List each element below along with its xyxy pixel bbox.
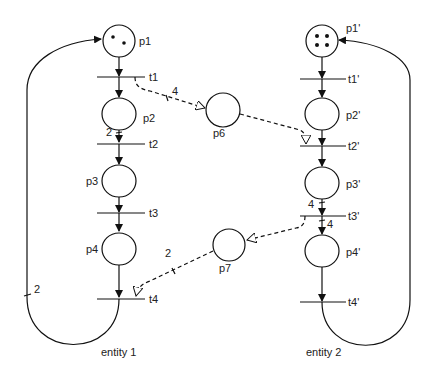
label-p3-prime: p3' (346, 178, 360, 190)
label-loop-weight: 2 (34, 283, 40, 295)
label-p4: p4 (86, 243, 98, 255)
petri-net-diagram: p1 t1 4 p2 2 t2 p3 t3 p4 t4 2 2 p6 p7 p1… (0, 0, 432, 378)
place-p2-prime (305, 98, 339, 130)
label-t3: t3 (149, 207, 158, 219)
place-p6 (206, 93, 240, 127)
place-p3 (102, 165, 136, 197)
label-weight-p7-out: 2 (165, 247, 171, 259)
label-p6: p6 (213, 127, 225, 139)
label-weight-p3-t3: 4 (308, 198, 314, 210)
label-p2-prime: p2' (346, 109, 360, 121)
label-t4: t4 (149, 293, 158, 305)
entity-2-label: entity 2 (306, 346, 341, 358)
place-p4-prime (305, 235, 339, 267)
label-t2-prime: t2' (348, 140, 359, 152)
token (111, 35, 115, 39)
place-p1-prime (306, 25, 338, 57)
place-p1 (103, 25, 135, 57)
label-t3-prime: t3' (348, 210, 359, 222)
place-p3-prime (305, 167, 339, 199)
label-t1: t1 (149, 71, 158, 83)
label-t2: t2 (149, 138, 158, 150)
label-p2: p2 (143, 112, 155, 124)
label-t1-prime: t1' (348, 73, 359, 85)
label-weight-t3-p4: 4 (327, 218, 333, 230)
label-p3: p3 (86, 175, 98, 187)
label-p1: p1 (139, 35, 151, 47)
label-weight-p6-in: 4 (172, 85, 178, 97)
label-p7: p7 (219, 262, 231, 274)
label-p4-prime: p4' (346, 246, 360, 258)
place-p4 (102, 233, 136, 265)
token (122, 41, 126, 45)
label-p1-prime: p1' (346, 22, 360, 34)
label-t4-prime: t4' (348, 296, 359, 308)
place-p7 (213, 229, 245, 261)
label-weight-t2: 2 (106, 126, 112, 138)
entity-1-label: entity 1 (101, 346, 136, 358)
